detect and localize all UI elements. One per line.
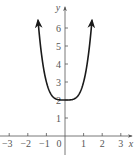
- y-axis-label: y: [55, 2, 61, 13]
- x-tick-label: 2: [100, 138, 105, 149]
- curve-right-branch: [65, 20, 92, 100]
- x-tick-label: 3: [118, 138, 123, 149]
- x-tick-label: −3: [2, 138, 13, 149]
- origin-label: 0: [57, 138, 62, 149]
- y-tick-label: 3: [56, 77, 61, 88]
- axis-ticks: 0−3−2−1123123456: [2, 23, 123, 150]
- x-tick-label: −2: [20, 138, 31, 149]
- y-tick-label: 6: [56, 23, 61, 34]
- x-tick-label: −1: [39, 138, 50, 149]
- y-tick-label: 1: [56, 113, 61, 124]
- y-tick-label: 5: [56, 41, 61, 52]
- x-axis-label: x: [128, 138, 134, 149]
- axes: xy: [0, 2, 134, 155]
- function-graph: xy 0−3−2−1123123456: [0, 0, 135, 155]
- x-tick-label: 1: [81, 138, 86, 149]
- y-tick-label: 4: [56, 59, 61, 70]
